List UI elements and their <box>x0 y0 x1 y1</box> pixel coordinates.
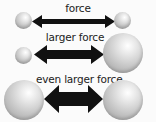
row1-double-arrow-icon <box>32 14 115 29</box>
row3-double-arrow-icon <box>44 85 103 113</box>
row2-double-arrow-icon <box>34 45 104 64</box>
row1-label: force <box>40 2 116 14</box>
row3-left-large-sphere <box>4 80 44 120</box>
row1-left-small-sphere <box>15 12 32 29</box>
row2-label: larger force <box>40 31 110 43</box>
row3-label: even larger force <box>36 73 118 85</box>
row3-right-large-sphere <box>103 80 143 120</box>
row2-left-small-sphere <box>15 47 32 64</box>
force-diagram: force larger force even larger force <box>0 0 156 122</box>
row1-right-small-sphere <box>114 12 131 29</box>
row2-right-large-sphere <box>103 33 143 73</box>
